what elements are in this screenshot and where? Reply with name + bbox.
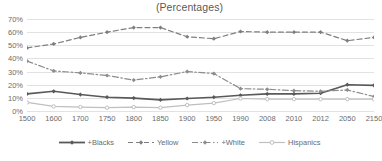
data-point-marker xyxy=(52,105,55,108)
x-axis: 1500160017001750180018501900195019902008… xyxy=(27,114,374,128)
chart-legend: +BlacksYellow+WhiteHispanics xyxy=(0,138,379,147)
legend-swatch-icon xyxy=(259,138,285,147)
legend-swatch-icon xyxy=(192,138,218,147)
data-point-marker xyxy=(132,105,135,108)
x-axis-tick-label: 1750 xyxy=(99,114,116,123)
legend-swatch-icon xyxy=(59,138,85,147)
data-point-marker xyxy=(212,37,216,41)
data-point-marker xyxy=(319,30,323,34)
data-point-marker xyxy=(105,30,109,34)
y-axis-tick-label: 10% xyxy=(8,93,23,102)
y-axis-tick-label: 20% xyxy=(8,80,23,89)
series-yellow xyxy=(27,25,374,50)
data-point-marker xyxy=(52,69,56,73)
legend-label: Hispanics xyxy=(288,138,321,147)
series-lines xyxy=(27,19,374,111)
x-axis-tick-label: 1700 xyxy=(72,114,89,123)
data-point-marker xyxy=(132,25,136,29)
legend-item-blacks[interactable]: +Blacks xyxy=(59,138,114,147)
y-axis: 0%10%20%30%40%50%60%70% xyxy=(0,19,25,111)
data-point-marker xyxy=(265,92,269,96)
legend-item-yellow[interactable]: Yellow xyxy=(128,138,178,147)
data-point-marker xyxy=(79,105,82,108)
data-point-marker xyxy=(345,83,349,87)
data-point-marker xyxy=(27,101,29,104)
legend-item-white[interactable]: +White xyxy=(192,138,245,147)
data-point-marker xyxy=(372,35,374,39)
data-point-marker xyxy=(185,96,189,100)
x-axis-tick-label: 1990 xyxy=(232,114,249,123)
data-point-marker xyxy=(158,75,162,79)
data-point-marker xyxy=(132,78,136,82)
data-point-marker xyxy=(78,71,82,75)
x-axis-tick-label: 1600 xyxy=(45,114,62,123)
x-axis-tick-label: 1500 xyxy=(19,114,36,123)
legend-label: +White xyxy=(221,138,245,147)
x-axis-tick-label: 1800 xyxy=(125,114,142,123)
data-point-marker xyxy=(266,97,269,100)
y-axis-tick-label: 70% xyxy=(8,15,23,24)
data-point-marker xyxy=(292,30,296,34)
y-axis-tick-label: 30% xyxy=(8,67,23,76)
data-point-marker xyxy=(159,106,162,109)
data-point-marker xyxy=(52,89,56,93)
data-point-marker xyxy=(132,96,136,100)
y-axis-tick-label: 50% xyxy=(8,41,23,50)
data-point-marker xyxy=(212,101,215,104)
data-point-marker xyxy=(158,25,162,29)
x-axis-tick-label: 2050 xyxy=(339,114,356,123)
data-point-marker xyxy=(372,97,374,100)
data-point-marker xyxy=(185,69,189,73)
x-axis-tick-label: 2008 xyxy=(259,114,276,123)
data-point-marker xyxy=(27,59,29,63)
data-point-marker xyxy=(52,42,56,46)
data-point-marker xyxy=(372,83,374,87)
legend-swatch-icon xyxy=(128,138,154,147)
series-hispanics xyxy=(27,97,374,110)
data-point-marker xyxy=(158,98,162,102)
data-point-marker xyxy=(78,35,82,39)
x-axis-tick-label: 1850 xyxy=(152,114,169,123)
data-point-marker xyxy=(265,30,269,34)
x-axis-tick-label: 2150 xyxy=(366,114,382,123)
data-point-marker xyxy=(105,95,109,99)
data-point-marker xyxy=(265,87,269,91)
y-axis-tick-label: 60% xyxy=(8,28,23,37)
data-point-marker xyxy=(27,46,29,50)
data-point-marker xyxy=(78,92,82,96)
data-point-marker xyxy=(212,95,216,99)
data-point-marker xyxy=(292,89,296,93)
data-point-marker xyxy=(319,97,322,100)
data-point-marker xyxy=(292,97,295,100)
x-axis-tick-label: 1950 xyxy=(206,114,223,123)
data-point-marker xyxy=(345,88,349,92)
legend-item-hispanics[interactable]: Hispanics xyxy=(259,138,321,147)
data-point-marker xyxy=(239,97,242,100)
chart-title: (Percentages) xyxy=(0,1,379,13)
data-point-marker xyxy=(27,92,29,96)
x-axis-tick-label: 1900 xyxy=(179,114,196,123)
data-point-marker xyxy=(345,39,349,43)
x-axis-tick-label: 2012 xyxy=(312,114,329,123)
legend-label: Yellow xyxy=(157,138,178,147)
legend-label: +Blacks xyxy=(88,138,114,147)
plot-area xyxy=(27,19,374,111)
data-point-marker xyxy=(346,97,349,100)
gridline xyxy=(27,111,374,112)
data-point-marker xyxy=(105,73,109,77)
data-point-marker xyxy=(185,35,189,39)
x-axis-tick-label: 2010 xyxy=(286,114,303,123)
data-point-marker xyxy=(185,103,188,106)
y-axis-tick-label: 40% xyxy=(8,54,23,63)
data-point-marker xyxy=(238,29,242,33)
data-point-marker xyxy=(105,106,108,109)
